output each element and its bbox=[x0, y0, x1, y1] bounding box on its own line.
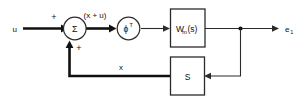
phi-transpose-label: ϕ bbox=[124, 24, 129, 34]
output-signal-label: e bbox=[285, 25, 290, 34]
wire-phi-to-wm bbox=[141, 25, 170, 31]
block-diagram-svg: Σ ϕ T W m (s) S u + + (x + u) e 1 x bbox=[0, 0, 300, 99]
s-block-label: S bbox=[185, 72, 191, 82]
summing-junction-label: Σ bbox=[72, 24, 78, 34]
sum-output-signal-label: (x + u) bbox=[84, 11, 107, 20]
wm-block-label-tail: (s) bbox=[188, 24, 198, 34]
wire-input-u bbox=[23, 25, 69, 33]
feedback-signal-label: x bbox=[119, 63, 123, 72]
wire-tap-to-s-block bbox=[204, 29, 241, 80]
sign-plus-bottom: + bbox=[76, 43, 81, 53]
output-signal-subscript: 1 bbox=[290, 29, 293, 35]
block-diagram-canvas: Σ ϕ T W m (s) S u + + (x + u) e 1 x bbox=[0, 0, 300, 99]
phi-transpose-block[interactable] bbox=[117, 17, 140, 40]
sign-plus-top: + bbox=[51, 12, 56, 22]
input-signal-label: u bbox=[13, 25, 17, 34]
